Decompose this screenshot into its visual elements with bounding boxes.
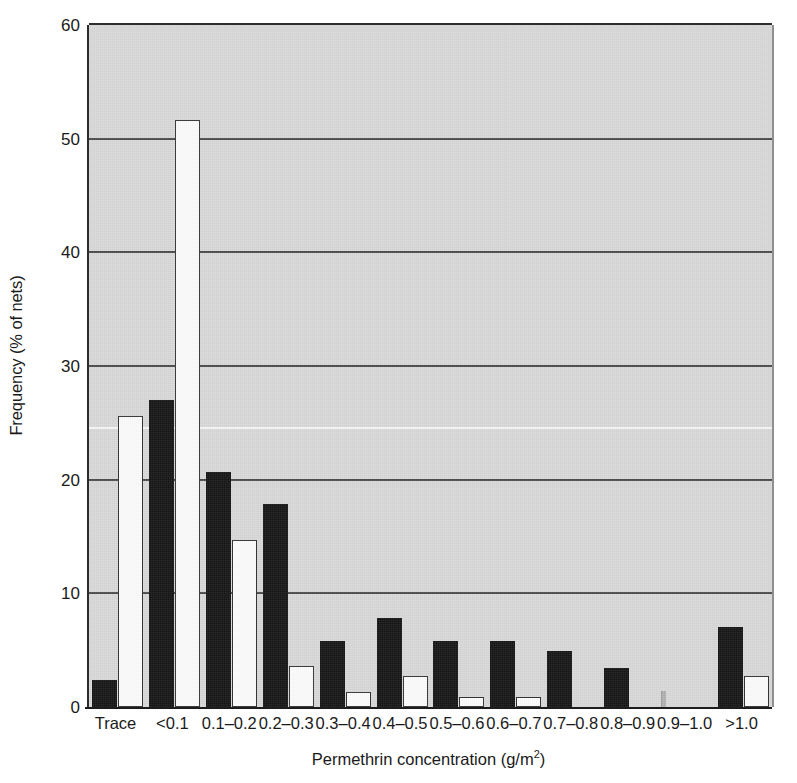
y-axis-title: Frequency (% of nets) (0, 0, 32, 710)
bar-white (232, 540, 257, 707)
category-tick (661, 691, 666, 707)
y-axis-tick-label: 40 (34, 244, 80, 261)
y-axis-tick-label: 10 (34, 585, 80, 602)
bar-white (175, 120, 200, 707)
bar-black (547, 651, 572, 707)
bar-white (516, 697, 541, 707)
y-axis-tick-labels: 0102030405060 (34, 0, 80, 760)
x-axis-title: Permethrin concentration (g/m2) (87, 748, 770, 769)
bar-black (320, 641, 345, 707)
bar-chart-figure: Frequency (% of nets) 0102030405060 Trac… (0, 0, 797, 783)
x-axis-baseline (85, 707, 772, 709)
bar-series-container (89, 25, 772, 707)
x-axis-tick-label: 0.2–0.3 (259, 714, 314, 732)
bar-black (377, 618, 402, 707)
bar-black (92, 680, 117, 707)
y-axis-title-text: Frequency (% of nets) (7, 275, 26, 435)
x-axis-tick-label: 0.5–0.6 (429, 714, 484, 732)
bar-white (289, 666, 314, 707)
bar-black (433, 641, 458, 707)
x-axis-tick-label: 0.6–0.7 (486, 714, 541, 732)
y-axis-tick-label: 0 (34, 699, 80, 716)
x-axis-tick-label: 0.1–0.2 (202, 714, 257, 732)
x-axis-title-base: Permethrin concentration (g/m (312, 750, 534, 768)
y-axis-tick-label: 30 (34, 358, 80, 375)
x-axis-tick-label: >1.0 (725, 714, 758, 732)
bar-black (604, 668, 629, 707)
y-axis-tick-label: 20 (34, 471, 80, 488)
bar-white (346, 692, 371, 707)
bar-white (744, 676, 769, 707)
bar-white (403, 676, 428, 707)
bar-black (490, 641, 515, 707)
x-axis-title-tail: ) (540, 750, 546, 768)
x-axis-tick-label: 0.8–0.9 (600, 714, 655, 732)
x-axis-tick-label: 0.9–1.0 (657, 714, 712, 732)
bar-black (206, 472, 231, 707)
x-axis-tick-labels: Trace<0.10.1–0.20.2–0.30.3–0.40.4–0.50.5… (87, 714, 770, 744)
y-axis-tick-label: 50 (34, 130, 80, 147)
bar-white (118, 416, 143, 707)
x-axis-tick-label: <0.1 (156, 714, 189, 732)
x-axis-tick-label: Trace (95, 714, 137, 732)
bar-black (263, 504, 288, 707)
bar-black (718, 627, 743, 707)
y-axis-tick-label: 60 (34, 17, 80, 34)
x-axis-tick-label: 0.3–0.4 (316, 714, 371, 732)
x-axis-tick-label: 0.7–0.8 (543, 714, 598, 732)
bar-white (459, 697, 484, 707)
plot-area (87, 25, 774, 707)
bar-black (149, 400, 174, 707)
x-axis-tick-label: 0.4–0.5 (373, 714, 428, 732)
